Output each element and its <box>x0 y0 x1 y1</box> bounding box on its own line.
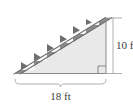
figure-container: 10 ft 18 ft <box>0 0 133 107</box>
base-label: 18 ft <box>50 90 70 102</box>
height-label: 10 ft <box>116 39 133 51</box>
base-brace <box>15 79 106 87</box>
staircase-triangle-figure: 10 ft 18 ft <box>0 0 133 107</box>
